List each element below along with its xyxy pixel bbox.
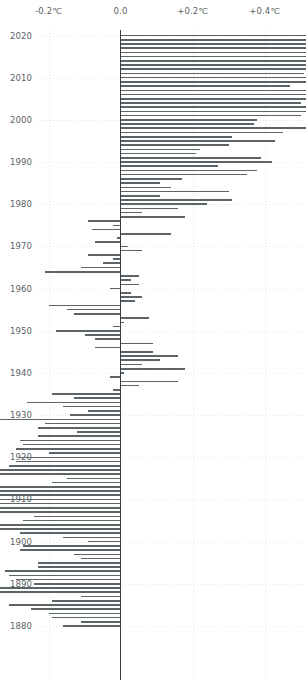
bar-1934: [74, 397, 121, 399]
bar-1910: [0, 499, 121, 501]
bar-2017: [121, 47, 307, 49]
bar-2018: [121, 43, 307, 45]
bar-1938: [121, 381, 179, 383]
bar-1908: [0, 507, 121, 509]
bar-1907: [0, 511, 121, 513]
bar-1924: [20, 440, 121, 442]
bar-1947: [121, 343, 153, 345]
bar-1900: [88, 541, 120, 543]
bar-1995: [121, 140, 276, 142]
bar-1962: [121, 279, 132, 281]
bar-1981: [121, 199, 233, 201]
bar-1881: [81, 621, 121, 623]
bar-1905: [23, 520, 120, 522]
bar-2001: [121, 115, 301, 117]
bar-1949: [85, 334, 121, 336]
bar-1959: [121, 292, 132, 294]
bar-1927: [38, 427, 121, 429]
bar-1884: [31, 608, 121, 610]
bar-1902: [20, 532, 121, 534]
bar-1935: [52, 393, 120, 395]
bar-1980: [121, 203, 207, 205]
bar-1944: [121, 355, 179, 357]
bars-layer: [0, 0, 306, 684]
bar-2014: [121, 60, 307, 62]
bar-2016: [121, 52, 307, 54]
bar-1968: [88, 254, 120, 256]
bar-1946: [95, 347, 120, 349]
bar-1926: [77, 431, 120, 433]
bar-2006: [121, 94, 307, 96]
bar-1985: [121, 182, 161, 184]
bar-1901: [63, 537, 121, 539]
bar-1943: [121, 359, 161, 361]
bar-1978: [121, 212, 143, 214]
bar-1914: [52, 482, 120, 484]
bar-1913: [0, 486, 121, 488]
bar-1899: [23, 545, 120, 547]
bar-1922: [16, 448, 120, 450]
bar-1986: [121, 178, 182, 180]
bar-1966: [103, 262, 121, 264]
bar-1941: [121, 368, 186, 370]
bar-2011: [121, 73, 305, 75]
bar-2000: [121, 119, 258, 121]
bar-2009: [121, 81, 307, 83]
bar-1987: [121, 174, 247, 176]
bar-1885: [9, 604, 121, 606]
bar-2020: [121, 35, 307, 37]
bar-1979: [121, 208, 179, 210]
bar-1970: [121, 246, 128, 248]
bar-2013: [121, 64, 307, 66]
bar-1956: [49, 305, 121, 307]
bar-1948: [95, 338, 120, 340]
bar-1932: [63, 406, 121, 408]
bar-1992: [121, 153, 197, 155]
bar-1915: [67, 478, 121, 480]
bar-1930: [70, 414, 120, 416]
bar-1942: [121, 364, 143, 366]
bar-1903: [0, 528, 121, 530]
bar-1984: [121, 187, 171, 189]
bar-1893: [5, 570, 120, 572]
plot-area: -0.4℃-0.2℃0.0+0.2℃+0.4℃+0.6℃+0.8℃ 202020…: [0, 0, 306, 684]
bar-1880: [63, 625, 121, 627]
bar-1988: [121, 170, 258, 172]
bar-1888: [0, 591, 121, 593]
bar-1883: [49, 613, 121, 615]
bar-1917: [0, 469, 121, 471]
bar-1958: [121, 296, 143, 298]
bar-1964: [45, 271, 121, 273]
bar-1929: [0, 419, 121, 421]
bar-1906: [34, 516, 120, 518]
bar-2007: [121, 90, 307, 92]
bar-1950: [56, 330, 121, 332]
bar-1912: [0, 490, 121, 492]
bar-2002: [121, 111, 307, 113]
bar-1994: [121, 144, 229, 146]
bar-1983: [121, 191, 229, 193]
bar-1923: [23, 444, 120, 446]
bar-1990: [121, 161, 272, 163]
bar-1886: [52, 600, 120, 602]
bar-2008: [121, 85, 290, 87]
bar-1971: [95, 241, 120, 243]
bar-1889: [0, 587, 121, 589]
bar-1891: [16, 579, 120, 581]
bar-1895: [38, 562, 121, 564]
bar-1996: [121, 136, 233, 138]
bar-1963: [121, 275, 139, 277]
bar-1991: [121, 157, 261, 159]
bar-1974: [92, 229, 121, 231]
bar-1887: [81, 596, 121, 598]
bar-1904: [0, 524, 121, 526]
bar-1969: [121, 250, 143, 252]
bar-2015: [121, 56, 307, 58]
bar-1916: [0, 473, 121, 475]
bar-1955: [67, 309, 121, 311]
bar-2010: [121, 77, 307, 79]
bar-2003: [121, 106, 307, 108]
bar-1937: [121, 385, 139, 387]
bar-1931: [88, 410, 120, 412]
bar-1977: [121, 216, 186, 218]
